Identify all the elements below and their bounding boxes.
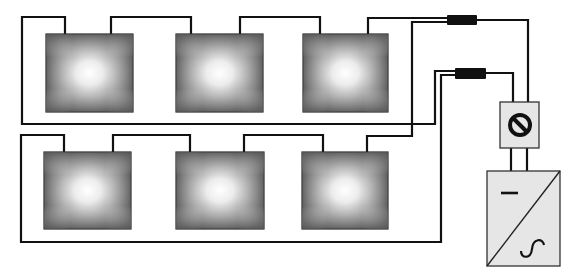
pv-panel-3 — [303, 34, 388, 112]
pv-panel-1 — [46, 34, 133, 112]
wire-p5-p6 — [244, 135, 323, 152]
pv-panel-4 — [44, 152, 131, 229]
dc-disconnect-switch — [500, 102, 539, 148]
inverter — [487, 171, 560, 266]
wire-p4-p5 — [113, 135, 190, 152]
pv-panel-6 — [302, 152, 388, 229]
wire-row1-positive — [368, 18, 448, 34]
wire-conn1-switch — [476, 20, 528, 102]
wire-p1-p2 — [111, 17, 191, 34]
pv-panels — [44, 34, 388, 229]
connector-2 — [455, 68, 486, 79]
wire-p2-p3 — [240, 17, 320, 34]
pv-panel-5 — [176, 152, 264, 229]
diagram-svg — [0, 0, 579, 272]
connector-1 — [447, 15, 477, 25]
connectors — [447, 15, 486, 79]
pv-wiring-diagram — [0, 0, 579, 272]
wire-conn2-switch — [485, 73, 513, 102]
pv-panel-2 — [176, 34, 263, 112]
